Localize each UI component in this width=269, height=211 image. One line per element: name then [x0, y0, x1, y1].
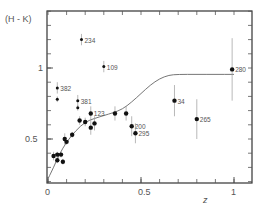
data-point [89, 111, 93, 115]
data-point [133, 131, 137, 135]
data-point [92, 121, 96, 125]
data-point [130, 124, 134, 128]
point-label: 200 [135, 123, 146, 130]
data-points: 12320029534265280382381109234 [51, 34, 246, 165]
data-point [80, 38, 83, 41]
data-point [77, 118, 81, 122]
data-point [76, 99, 79, 102]
x-axis-label: z [202, 195, 208, 205]
data-point [172, 98, 176, 102]
chart-container: 00.510.51 12320029534265280382381109234 … [0, 0, 269, 211]
point-label: 280 [235, 66, 246, 73]
data-point [102, 65, 105, 68]
data-point [70, 133, 74, 137]
data-point [76, 106, 79, 109]
point-label: 123 [94, 110, 105, 117]
data-point [56, 98, 59, 101]
x-tick-label: 0.5 [138, 187, 151, 197]
x-tick-label: 1 [231, 187, 236, 197]
point-label: 381 [81, 98, 92, 105]
point-label: 382 [60, 85, 71, 92]
point-label: 265 [200, 116, 211, 123]
scatter-plot: 00.510.51 12320029534265280382381109234 … [0, 0, 269, 211]
axis-labels: (H - K) z [5, 14, 208, 205]
y-tick-label: 0.5 [25, 134, 38, 144]
y-tick-label: 1 [38, 63, 43, 73]
data-point [83, 120, 87, 124]
axis-ticks: 00.510.51 [25, 11, 252, 197]
data-point [61, 160, 65, 164]
point-label: 109 [107, 64, 118, 71]
point-label: 234 [84, 37, 95, 44]
data-point [89, 125, 93, 129]
data-point [230, 67, 234, 71]
data-point [64, 140, 68, 144]
point-label: 295 [138, 130, 149, 137]
data-point [124, 111, 128, 115]
data-point [195, 117, 199, 121]
x-tick-label: 0 [45, 187, 50, 197]
point-label: 34 [177, 98, 185, 105]
y-axis-label: (H - K) [5, 14, 32, 24]
data-point [113, 111, 117, 115]
data-point [55, 158, 59, 162]
data-point [59, 152, 63, 156]
data-point [56, 86, 59, 89]
